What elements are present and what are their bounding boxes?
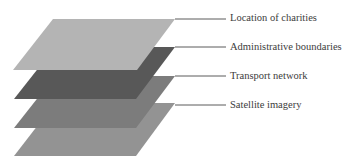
label-satellite-imagery: Satellite imagery [230,99,301,111]
label-administrative-boundaries: Administrative boundaries [230,41,342,53]
label-location-of-charities: Location of charities [230,12,317,24]
label-transport-network: Transport network [230,70,307,82]
